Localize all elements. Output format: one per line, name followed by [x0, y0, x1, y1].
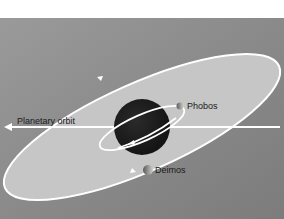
mars-moons-orbit-diagram: Phobos Deimos Planetary orbit: [0, 0, 284, 219]
phobos-label: Phobos: [187, 101, 218, 111]
deimos-label: Deimos: [155, 165, 186, 175]
planetary-orbit-label: Planetary orbit: [17, 116, 76, 126]
deimos-moon: [143, 165, 153, 175]
phobos-moon: [177, 103, 184, 110]
